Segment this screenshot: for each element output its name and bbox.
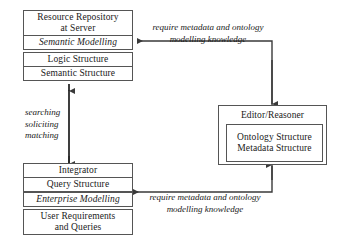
box-integrator: Integrator bbox=[23, 163, 133, 178]
box-ontology-metadata-structure: Ontology Structure Metadata Structure bbox=[226, 124, 323, 162]
box-enterprise-modelling: Enterprise Modelling bbox=[23, 192, 133, 207]
box-resource-repository: Resource Repository at Server bbox=[23, 10, 133, 36]
diagram-canvas: Resource Repository at Server Semantic M… bbox=[0, 0, 347, 249]
connector-editor-to-semantic-modelling bbox=[137, 41, 272, 105]
label-vertical-flow: searching soliciting matching bbox=[25, 107, 75, 142]
label-top-requirement: require metadata and ontology modelling … bbox=[143, 22, 273, 45]
box-editor-reasoner-header: Editor/Reasoner bbox=[222, 108, 323, 123]
connector-enterprise-modelling-to-editor bbox=[133, 165, 272, 192]
box-user-requirements: User Requirements and Queries bbox=[23, 209, 133, 235]
box-query-structure: Query Structure bbox=[23, 177, 133, 192]
box-logic-structure: Logic Structure bbox=[23, 52, 133, 67]
box-semantic-modelling: Semantic Modelling bbox=[23, 35, 133, 50]
box-semantic-structure: Semantic Structure bbox=[23, 66, 133, 81]
label-bottom-requirement: require metadata and ontology modelling … bbox=[140, 192, 270, 215]
